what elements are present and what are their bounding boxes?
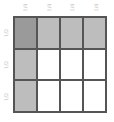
- grid-cell-empty: [60, 80, 83, 112]
- area-model-grid: [13, 16, 107, 113]
- grid-cell-empty: [83, 80, 106, 112]
- column-label-text: 1/4: [69, 3, 75, 11]
- grid-cell-empty: [37, 80, 60, 112]
- column-label-text: 1/4: [93, 3, 99, 11]
- grid-cell-empty: [60, 49, 83, 81]
- row-label-text: 1/3: [3, 93, 9, 101]
- grid-cell-shaded: [37, 17, 60, 49]
- row-label-2: 1/3: [0, 49, 12, 81]
- row-label-text: 1/3: [3, 29, 9, 37]
- row-label-text: 1/3: [3, 61, 9, 69]
- column-label-text: 1/4: [46, 3, 52, 11]
- grid-cell-shaded: [83, 17, 106, 49]
- grid-cell-overlap: [14, 17, 37, 49]
- grid-cell-shaded: [14, 49, 37, 81]
- column-label-text: 1/4: [22, 3, 28, 11]
- grid-cell-empty: [37, 49, 60, 81]
- row-label-1: 1/3: [0, 17, 12, 49]
- grid-cell-shaded: [14, 80, 37, 112]
- grid-cell-shaded: [60, 17, 83, 49]
- grid-cell-empty: [83, 49, 106, 81]
- row-label-3: 1/3: [0, 81, 12, 113]
